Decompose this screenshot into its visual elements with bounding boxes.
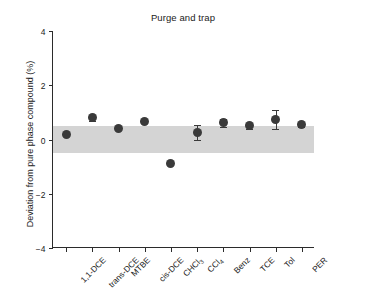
x-axis-label-1-1-dce: 1,1-DCE <box>78 255 108 285</box>
y-tick-mark: −2 <box>49 194 54 195</box>
x-tick-mark <box>302 247 303 252</box>
data-point-chcl3 <box>166 159 175 168</box>
y-tick-mark: 2 <box>49 85 54 86</box>
chart-title: Purge and trap <box>52 12 314 23</box>
x-axis-label-benz: Benz <box>232 255 252 275</box>
x-axis-label-chcl3: CHCl3 <box>181 255 205 279</box>
y-tick-mark: 4 <box>49 31 54 32</box>
data-point-1-1-dce <box>62 130 71 139</box>
data-point-benz <box>219 118 228 127</box>
x-tick-mark <box>223 247 224 252</box>
error-cap-lower <box>272 129 279 130</box>
x-axis-label-tol: Tol <box>282 255 297 270</box>
plot-inner <box>53 31 314 247</box>
x-axis-label-tce: TCE <box>257 255 276 274</box>
data-point-ccl4 <box>193 128 202 137</box>
x-axis-label-per: PER <box>310 255 329 274</box>
x-tick-mark <box>171 247 172 252</box>
x-tick-mark <box>145 247 146 252</box>
y-tick-label: −2 <box>36 190 46 200</box>
x-tick-mark <box>92 247 93 252</box>
x-tick-mark <box>119 247 120 252</box>
error-cap-upper <box>194 125 201 126</box>
x-tick-mark <box>197 247 198 252</box>
y-tick-label: 0 <box>41 136 46 146</box>
acceptance-band <box>53 126 314 153</box>
error-cap-upper <box>272 110 279 111</box>
data-point-tol <box>271 115 280 124</box>
y-axis-label: Deviation from pure phase compound (%) <box>25 34 35 254</box>
x-tick-mark <box>276 247 277 252</box>
y-tick-mark: −4 <box>49 248 54 249</box>
x-axis-label-cis-dce: cis-DCE <box>157 255 186 284</box>
y-tick-label: 2 <box>41 81 46 91</box>
x-tick-mark <box>66 247 67 252</box>
x-tick-mark <box>250 247 251 252</box>
y-tick-label: 4 <box>41 27 46 37</box>
chart-figure: Purge and trap Deviation from pure phase… <box>0 0 365 304</box>
x-axis-label-ccl4: CCl4 <box>205 255 224 274</box>
y-tick-label: −4 <box>36 244 46 254</box>
plot-area: 420−2−4 <box>52 31 314 248</box>
error-cap-lower <box>194 140 201 141</box>
y-tick-mark: 0 <box>49 140 54 141</box>
